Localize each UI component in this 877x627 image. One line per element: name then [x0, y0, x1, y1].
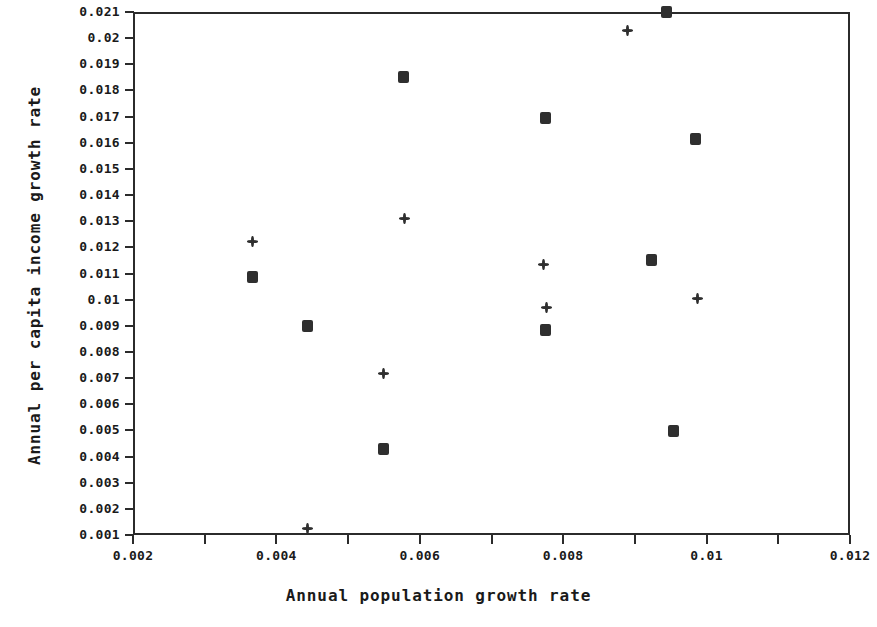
- data-point-plus: [692, 293, 703, 304]
- data-point-square: [247, 271, 258, 283]
- scatter-plot-figure: Annual per capita income growth rate Ann…: [0, 0, 877, 627]
- data-point-square: [398, 71, 409, 83]
- data-point-square: [690, 133, 701, 145]
- data-point-plus: [541, 302, 552, 313]
- data-point-square: [540, 324, 551, 336]
- data-point-square: [540, 112, 551, 124]
- data-point-square: [661, 6, 672, 18]
- data-point-square: [668, 425, 679, 437]
- data-point-plus: [538, 259, 549, 270]
- data-point-plus: [378, 368, 389, 379]
- data-point-square: [302, 320, 313, 332]
- data-point-square: [378, 443, 389, 455]
- data-point-square: [646, 254, 657, 266]
- data-point-plus: [247, 236, 258, 247]
- data-marker-layer: [0, 0, 877, 627]
- data-point-plus: [302, 523, 313, 534]
- data-point-plus: [399, 213, 410, 224]
- data-point-plus: [622, 25, 633, 36]
